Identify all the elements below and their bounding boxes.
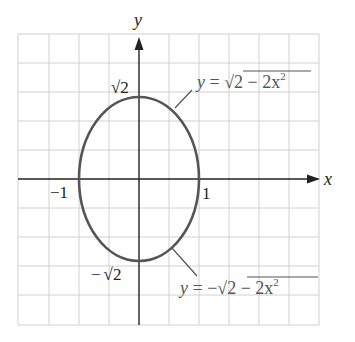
y-axis	[135, 37, 144, 325]
y-axis-arrow-icon	[135, 37, 144, 50]
y-axis-label: y	[132, 10, 142, 30]
lower-leader-line	[172, 248, 197, 276]
x-tick-neg-one: −1	[50, 183, 68, 202]
svg-text:y = √2 − 2x2: y = √2 − 2x2	[195, 70, 286, 92]
x-axis-arrow-icon	[307, 175, 320, 184]
y-tick-neg-sqrt2: −√2	[91, 265, 121, 284]
y-tick-sqrt2: √2	[111, 78, 129, 97]
upper-curve-equation: y = √2 − 2x2	[195, 70, 311, 92]
x-axis-label: x	[323, 169, 332, 189]
lower-equation-text: y = −√2 − 2x2	[178, 276, 279, 298]
graph-canvas: y x −1 1 √2 −√2 y = √2 − 2x2 y = −√2 − 2…	[0, 0, 355, 342]
upper-leader-line	[175, 90, 192, 108]
x-tick-one: 1	[202, 184, 211, 203]
figure: y x −1 1 √2 −√2 y = √2 − 2x2 y = −√2 − 2…	[0, 0, 355, 342]
